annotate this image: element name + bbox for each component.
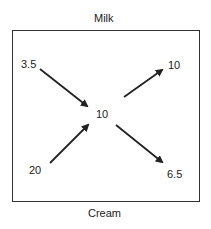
- arrow-center-to-top-right: [124, 70, 162, 97]
- arrow-bottom-left-to-center: [50, 125, 88, 163]
- arrow-center-to-bottom-right: [116, 125, 162, 162]
- arrows-layer: [0, 0, 211, 229]
- arrow-top-left-to-center: [40, 69, 87, 106]
